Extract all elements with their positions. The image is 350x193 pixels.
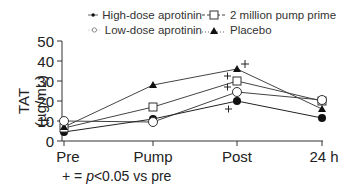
footnote-suffix: <0.05 vs pre	[94, 168, 171, 184]
plot-area	[0, 0, 350, 193]
series-markers-pump-prime	[60, 77, 326, 132]
series-line-high-dose	[64, 101, 322, 132]
footnote: + = p<0.05 vs pre	[62, 168, 171, 184]
footnote-p: p	[86, 168, 94, 184]
series-line-low-dose	[64, 92, 322, 122]
footnote-prefix: + =	[62, 168, 86, 184]
series-markers-placebo	[60, 65, 326, 130]
axes	[57, 41, 323, 146]
series-markers-high-dose	[60, 97, 326, 136]
series-markers-low-dose	[60, 88, 327, 127]
series-line-placebo	[64, 69, 322, 127]
